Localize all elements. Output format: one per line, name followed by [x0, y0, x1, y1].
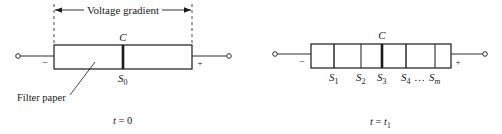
segment-label-s1: S1: [329, 71, 339, 86]
electrophoresis-diagram: Voltage gradient C − + S0 Filter paper t…: [0, 0, 502, 134]
segment-label-s4: S4: [401, 71, 411, 86]
minus-sign: −: [42, 57, 48, 68]
filter-paper-label: Filter paper: [17, 92, 66, 103]
segment-label-s3: S3: [377, 71, 387, 86]
segment-label-s2: S2: [356, 71, 366, 86]
positive-terminal: [483, 52, 488, 57]
voltage-gradient-label: Voltage gradient: [87, 4, 159, 16]
negative-terminal: [273, 52, 278, 57]
segment-label-sm: Sm: [429, 71, 441, 86]
positive-terminal: [227, 54, 232, 59]
left-panel: Voltage gradient C − + S0 Filter paper t…: [16, 4, 232, 126]
caption-t1: t = t1: [370, 116, 391, 130]
center-label-c: C: [378, 29, 386, 41]
negative-terminal: [16, 54, 21, 59]
caption-t0: t = 0: [113, 115, 132, 126]
ellipsis: …: [414, 71, 425, 83]
right-panel: C − + S1 S2 S3 S4 … Sm t = t1: [273, 29, 488, 130]
sample-label-s0: S0: [118, 72, 128, 87]
minus-sign: −: [299, 56, 305, 67]
plus-sign: +: [455, 57, 460, 67]
plus-sign: +: [197, 58, 202, 68]
center-label-c: C: [119, 31, 127, 43]
